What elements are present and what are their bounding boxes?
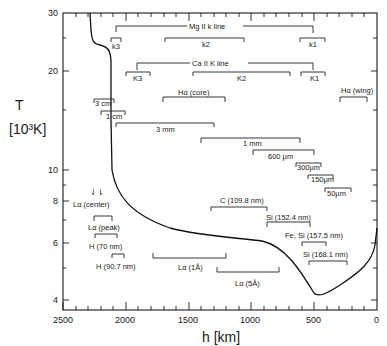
x-tick-1500: 1500 <box>178 315 198 325</box>
y-axis-right-ticks <box>371 38 377 300</box>
h907-label: H (90.7 nm) <box>96 262 136 271</box>
ha-core-label: Hα (core) <box>178 88 210 97</box>
150um-label: 150μm <box>311 175 334 184</box>
fesi1575-label: Fe, Si (157.5 nm) <box>285 231 343 240</box>
h-alpha-brackets: Hα (core) Hα (wing) <box>163 86 374 102</box>
temperature-height-chart: 30 20 10 8 6 4 2500 2000 1500 1000 500 0… <box>0 0 387 346</box>
ca-k-line-label: Ca II K line <box>192 59 229 68</box>
la-center-arrows: ⇃⇂ <box>90 188 104 197</box>
x-tick-2500: 2500 <box>53 315 73 325</box>
1cm-label: 1 cm <box>106 112 122 121</box>
lyman-brackets: ⇃⇂ Lα (center) Lα (peak) H (70 nm) H (90… <box>73 188 136 271</box>
y-axis-ticks <box>63 38 69 300</box>
y-tick-4: 4 <box>53 295 58 305</box>
K2-label: K2 <box>237 74 246 83</box>
mg-k-line-label: Mg II k line <box>189 22 225 31</box>
y-axis-title: T <box>15 97 24 113</box>
uv-brackets: C (109.8 nm) Si (152.4 nm) Fe, Si (157.5… <box>153 196 349 288</box>
k1-label: k1 <box>309 40 317 49</box>
K3-label: K3 <box>133 74 142 83</box>
y-tick-8: 8 <box>53 196 58 206</box>
k3-label: k3 <box>112 42 120 51</box>
3cm-label: 3 cm <box>95 99 111 108</box>
wavelength-brackets: 3 cm 1 cm 3 mm 1 mm 600 μm 300μm 150μm 5… <box>94 99 351 198</box>
y-tick-20: 20 <box>48 66 58 76</box>
la-peak-label: Lα (peak) <box>88 223 120 232</box>
k2-label: k2 <box>202 40 210 49</box>
x-axis-ticks <box>63 302 364 310</box>
si1681-label: Si (168.1 nm) <box>303 250 349 259</box>
si1524-label: Si (152.4 nm) <box>266 213 312 222</box>
la5A-label: Lα (5Å) <box>235 279 260 288</box>
x-axis-title: h [km] <box>202 329 240 345</box>
x-tick-500: 500 <box>306 315 321 325</box>
la1A-label: Lα (1Å) <box>178 263 203 272</box>
y-tick-30: 30 <box>48 8 58 18</box>
ca-k-line-group: Ca II K line K3 K2 K1 <box>126 59 325 83</box>
y-axis-unit: [10³K] <box>9 121 46 137</box>
600um-label: 600 μm <box>268 152 293 161</box>
x-tick-0: 0 <box>374 315 379 325</box>
50um-label: 50μm <box>327 189 346 198</box>
la-center-label: Lα (center) <box>73 200 110 209</box>
y-tick-6: 6 <box>53 238 58 248</box>
x-tick-2000: 2000 <box>115 315 135 325</box>
1mm-label: 1 mm <box>243 139 262 148</box>
300um-label: 300μm <box>297 163 320 172</box>
ha-wing-label: Hα (wing) <box>341 86 374 95</box>
3mm-label: 3 mm <box>156 125 175 134</box>
h70-label: H (70 nm) <box>89 242 123 251</box>
y-tick-10: 10 <box>48 165 58 175</box>
c1098-label: C (109.8 nm) <box>220 196 264 205</box>
mg-k-line-group: Mg II k line k3 k2 k1 <box>111 22 325 51</box>
x-axis-top-ticks <box>76 13 364 21</box>
x-tick-1000: 1000 <box>240 315 260 325</box>
K1-label: K1 <box>310 74 319 83</box>
